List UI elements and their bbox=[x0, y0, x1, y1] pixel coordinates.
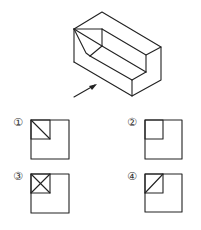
isometric-block bbox=[74, 12, 161, 96]
option-1-label[interactable]: ① bbox=[13, 117, 23, 129]
view-direction-arrow bbox=[74, 84, 97, 97]
option-3-label[interactable]: ③ bbox=[13, 171, 23, 183]
isometric-figure bbox=[0, 0, 201, 230]
option-2-drawing[interactable] bbox=[145, 120, 182, 159]
option-3-drawing[interactable] bbox=[31, 174, 69, 213]
option-2-label[interactable]: ② bbox=[127, 117, 137, 129]
option-4-drawing[interactable] bbox=[145, 174, 182, 212]
option-1-drawing[interactable] bbox=[31, 120, 69, 159]
option-4-label[interactable]: ④ bbox=[127, 171, 137, 183]
